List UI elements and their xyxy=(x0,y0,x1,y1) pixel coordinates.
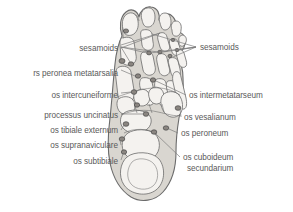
foot-ossicles-diagram: sesamoids rs peronea metatarsalia os int… xyxy=(0,0,293,212)
label-processus-uncinatus: processus uncinatus xyxy=(44,111,118,120)
label-os-peroneum: os peroneum xyxy=(181,129,228,138)
sesamoid-fourth-toe xyxy=(168,54,172,57)
label-os-vesalianum: os vesalianum xyxy=(184,113,236,122)
label-sesamoids-left: sesamoids xyxy=(79,44,118,53)
label-secundarium: secundarium xyxy=(187,164,234,173)
label-os-intermetatarseum: os intermetatarseum xyxy=(189,91,263,100)
label-os-cuboideum: os cuboideum xyxy=(183,153,234,162)
fourth-distal-phalanx xyxy=(171,21,181,36)
os-intercuneiforme-node xyxy=(131,90,137,95)
processus-uncinatus-node xyxy=(143,112,149,117)
sesamoid-hallux-lateral xyxy=(128,62,134,66)
label-os-supranaviculare: os supranaviculare xyxy=(50,141,118,150)
os-cuboideum-secundarium-node xyxy=(151,130,157,134)
os-peroneum-metatarsalia-node xyxy=(135,74,140,78)
os-subtibiale-node xyxy=(121,150,126,154)
label-sesamoids-right: sesamoids xyxy=(200,43,239,52)
sesamoid-hallux-proximal xyxy=(123,29,128,33)
os-intermetatarseum-node xyxy=(150,78,155,82)
ossicle-midfoot-anterior xyxy=(134,103,139,107)
label-os-intercuneiforme: os intercuneiforme xyxy=(52,91,119,100)
second-distal-phalanx xyxy=(141,8,155,27)
label-ossa-peronea-metatarsalia: rs peronea metatarsalia xyxy=(33,69,118,78)
sesamoid-hallux-medial xyxy=(119,59,125,64)
os-peroneum-node xyxy=(163,126,169,130)
label-os-subtibiale: os subtibiale xyxy=(73,157,118,166)
label-os-tibiale-externum: os tibiale externum xyxy=(50,126,118,135)
